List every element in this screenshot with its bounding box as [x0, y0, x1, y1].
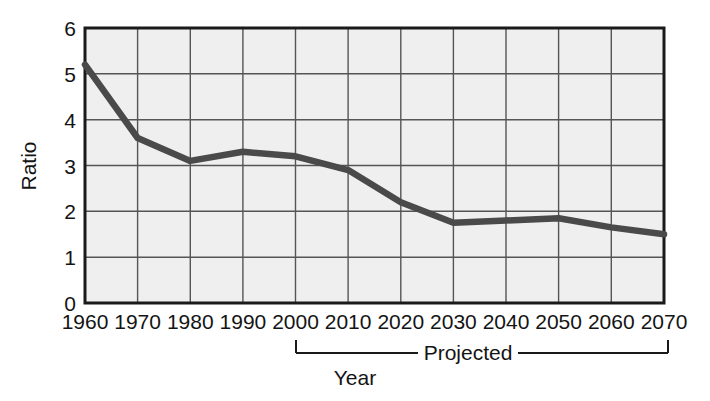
x-tick-label: 2030: [430, 310, 477, 333]
y-axis-ticks: 6 5 4 3 2 1 0: [64, 17, 76, 315]
x-tick-label: 2040: [483, 310, 530, 333]
x-tick-label: 2060: [588, 310, 635, 333]
y-tick-label: 6: [64, 17, 76, 40]
x-tick-label: 2050: [535, 310, 582, 333]
projected-label: Projected: [424, 341, 513, 364]
y-tick-label: 4: [64, 109, 76, 132]
x-tick-label: 1970: [114, 310, 161, 333]
x-tick-label: 2010: [325, 310, 372, 333]
chart-container: 6 5 4 3 2 1 0 Ratio 1960 1970 1980 1990 …: [0, 0, 710, 401]
y-tick-label: 3: [64, 155, 76, 178]
x-tick-label: 2070: [641, 310, 688, 333]
x-axis-title: Year: [334, 366, 376, 389]
x-tick-label: 1960: [62, 310, 109, 333]
y-axis-title: Ratio: [17, 141, 40, 190]
y-tick-label: 1: [64, 246, 76, 269]
x-tick-label: 2000: [272, 310, 319, 333]
y-tick-label: 5: [64, 63, 76, 86]
x-axis-ticks: 1960 1970 1980 1990 2000 2010 2020 2030 …: [62, 310, 688, 333]
line-chart: 6 5 4 3 2 1 0 Ratio 1960 1970 1980 1990 …: [0, 0, 710, 401]
x-tick-label: 1980: [167, 310, 214, 333]
x-tick-label: 2020: [377, 310, 424, 333]
x-tick-label: 1990: [220, 310, 267, 333]
y-tick-label: 2: [64, 200, 76, 223]
